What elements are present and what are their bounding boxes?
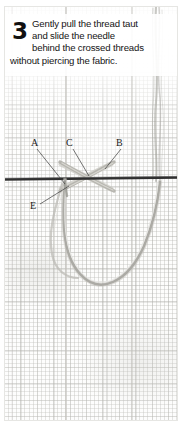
caption-inner: 3 Gently pull the thread taut and slide …: [10, 18, 172, 67]
caption-block: 3 Gently pull the thread taut and slide …: [4, 14, 178, 76]
caption-line-4: without piercing the fabric.: [10, 55, 172, 67]
step-number: 3: [12, 19, 28, 43]
label-b: B: [116, 138, 123, 148]
label-a: A: [31, 138, 38, 148]
instruction-photo-panel: A C B E 3 Gently pull the thread taut an…: [0, 0, 182, 425]
label-e: E: [30, 201, 36, 211]
label-c: C: [66, 138, 73, 148]
fabric-photo: A C B E 3 Gently pull the thread taut an…: [4, 6, 178, 421]
label-leader-lines: [37, 149, 121, 204]
curved-needle: [64, 180, 160, 285]
caption-line-1: Gently pull the thread taut: [10, 18, 172, 30]
caption-text: Gently pull the thread taut and slide th…: [10, 18, 172, 67]
caption-line-3: behind the crossed threads: [10, 42, 172, 54]
caption-line-2: and slide the needle: [10, 30, 172, 42]
leader-line-b: [105, 149, 121, 169]
